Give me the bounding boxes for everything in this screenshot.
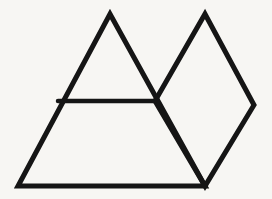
line-drawing-canvas: [0, 0, 272, 199]
figure-container: [0, 0, 272, 199]
